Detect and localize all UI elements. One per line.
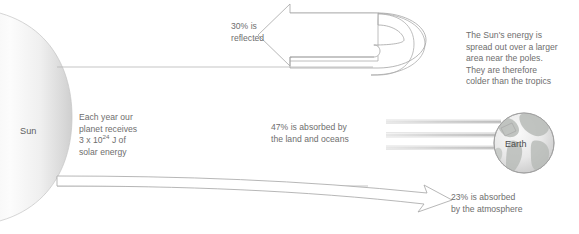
sun-body xyxy=(0,8,72,226)
absorbed-atmosphere-arrow xyxy=(57,176,452,212)
solar-energy-unit: J of xyxy=(109,135,125,145)
earth-label: Earth xyxy=(505,139,527,151)
absorbed-atmosphere-annotation: 23% is absorbed by the atmosphere xyxy=(451,192,523,215)
reflected-annotation: 30% is reflected xyxy=(231,21,264,44)
reflected-arrow xyxy=(258,4,426,75)
solar-energy-diagram: Sun Earth Each year ourplanet receives3 … xyxy=(0,0,579,234)
sun-label: Sun xyxy=(20,126,36,138)
absorbed-land-rays xyxy=(386,120,501,150)
absorbed-land-annotation: 47% is absorbed by the land and oceans xyxy=(271,122,349,145)
solar-energy-line-4: solar energy xyxy=(79,147,127,157)
solar-energy-value-base: 3 x 10 xyxy=(79,135,103,145)
solar-energy-line-1: Each year our xyxy=(79,112,133,122)
poles-annotation: The Sun's energy is spread out over a la… xyxy=(466,30,558,88)
solar-energy-line-2: planet receives xyxy=(79,124,137,134)
solar-energy-annotation: Each year ourplanet receives3 x 1024 J o… xyxy=(79,112,137,158)
